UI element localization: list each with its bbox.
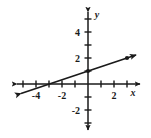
y-axis-label: y <box>94 9 100 20</box>
coordinate-plane-svg: -4 -2 2 4 2 -2 x y <box>0 0 151 138</box>
y-tick-label-pos2: 2 <box>75 53 80 64</box>
x-axis <box>17 81 140 88</box>
x-tick-label-neg2: -2 <box>58 90 66 101</box>
x-tick-label-neg4: -4 <box>32 90 40 101</box>
y-tick-label-pos4: 4 <box>75 27 80 38</box>
y-tick-label-neg2: -2 <box>72 105 80 116</box>
x-tick-label-pos2: 2 <box>112 90 117 101</box>
graph-figure: -4 -2 2 4 2 -2 x y <box>0 0 151 138</box>
data-point-3-2 <box>125 56 129 60</box>
x-axis-label: x <box>130 87 136 98</box>
tick-labels: -4 -2 2 4 2 -2 <box>32 27 117 116</box>
data-point-y-intercept <box>86 69 90 73</box>
